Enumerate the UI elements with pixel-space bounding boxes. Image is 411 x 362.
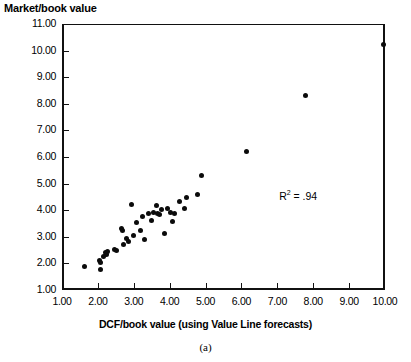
data-point xyxy=(82,264,87,269)
y-tick-label: 8.00 xyxy=(8,97,56,109)
data-points-layer xyxy=(62,24,385,290)
r-squared-annotation: R2 = .94 xyxy=(279,189,317,202)
scatter-plot-figure: Market/book value 1.002.003.004.005.006.… xyxy=(0,0,411,362)
data-point xyxy=(195,192,200,197)
data-point xyxy=(114,248,119,253)
r-squared-value: = .94 xyxy=(291,189,318,201)
data-point xyxy=(170,219,175,224)
data-point xyxy=(140,214,145,219)
y-tick-label: 2.00 xyxy=(8,256,56,268)
y-tick-label: 1.00 xyxy=(8,283,56,295)
data-point xyxy=(157,212,162,217)
y-tick-label: 3.00 xyxy=(8,230,56,242)
data-point xyxy=(159,207,164,212)
x-axis-title: DCF/book value (using Value Line forecas… xyxy=(0,318,411,330)
data-point xyxy=(120,228,125,233)
data-point xyxy=(177,199,182,204)
y-tick-label: 5.00 xyxy=(8,177,56,189)
data-point xyxy=(129,202,134,207)
data-point xyxy=(131,233,136,238)
data-point xyxy=(134,220,139,225)
data-point xyxy=(138,228,143,233)
data-point xyxy=(184,195,189,200)
y-tick-label: 10.00 xyxy=(8,44,56,56)
data-point xyxy=(381,42,386,47)
y-tick-label: 4.00 xyxy=(8,203,56,215)
data-point xyxy=(199,173,204,178)
y-tick-label: 6.00 xyxy=(8,150,56,162)
y-tick-label: 11.00 xyxy=(8,17,56,29)
data-point xyxy=(244,149,249,154)
data-point xyxy=(172,211,177,216)
r-squared-symbol: R xyxy=(279,189,287,201)
panel-caption: (a) xyxy=(0,341,411,353)
y-tick-label: 9.00 xyxy=(8,70,56,82)
x-tick-label: 10.00 xyxy=(360,295,410,307)
data-point xyxy=(98,260,103,265)
data-point xyxy=(182,206,187,211)
data-point xyxy=(142,237,147,242)
data-point xyxy=(149,218,154,223)
data-point xyxy=(98,267,103,272)
data-point xyxy=(105,249,110,254)
data-point xyxy=(154,203,159,208)
y-tick-label: 7.00 xyxy=(8,123,56,135)
data-point xyxy=(162,231,167,236)
data-point xyxy=(126,239,131,244)
y-axis-title: Market/book value xyxy=(4,2,97,14)
data-point xyxy=(303,93,308,98)
